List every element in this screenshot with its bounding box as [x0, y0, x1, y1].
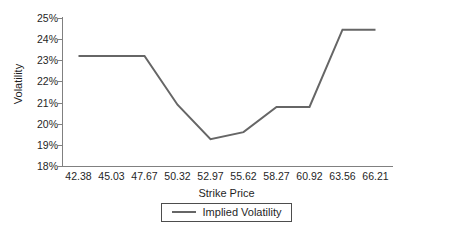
y-axis-tick-mark: [57, 166, 62, 167]
y-axis-tick-mark: [57, 145, 62, 146]
x-axis-line: [62, 166, 393, 167]
y-axis-tick: 24%: [20, 34, 58, 44]
implied-volatility-line: [79, 30, 376, 140]
y-axis-tick: 20%: [20, 119, 58, 129]
y-axis-tick-label: 22%: [28, 76, 58, 86]
y-axis-tick: 25%: [20, 13, 58, 23]
y-axis-tick: 22%: [20, 76, 58, 86]
y-axis-tick-label: 24%: [28, 34, 58, 44]
y-axis-tick: 23%: [20, 55, 58, 65]
legend-box: Implied Volatility: [161, 203, 293, 222]
x-axis-tick-label: 66.21: [354, 170, 398, 182]
y-axis-tick: 18%: [20, 161, 58, 171]
x-axis-title: Strike Price: [0, 187, 453, 199]
y-axis-tick-mark: [57, 39, 62, 40]
y-axis-line: [62, 17, 63, 167]
legend-label-implied-volatility: Implied Volatility: [203, 206, 282, 218]
y-axis-tick-mark: [57, 103, 62, 104]
legend-line-swatch-icon: [172, 211, 196, 213]
chart-legend: Implied Volatility: [0, 203, 453, 222]
y-axis-tick-label: 23%: [28, 55, 58, 65]
y-axis-tick-mark: [57, 124, 62, 125]
y-axis-tick-mark: [57, 60, 62, 61]
implied-volatility-chart: 25%24%23%22%21%20%19%18% 42.3845.0347.67…: [0, 0, 453, 230]
y-axis-tick-label: 20%: [28, 119, 58, 129]
y-axis-tick-label: 21%: [28, 98, 58, 108]
y-axis-tick-label: 25%: [28, 13, 58, 23]
y-axis-tick-label: 19%: [28, 140, 58, 150]
y-axis-title: Volatility: [12, 44, 24, 124]
y-axis-tick-mark: [57, 81, 62, 82]
y-axis-tick: 21%: [20, 98, 58, 108]
y-axis-tick: 19%: [20, 140, 58, 150]
y-axis-tick-mark: [57, 18, 62, 19]
y-axis-tick-label: 18%: [28, 161, 58, 171]
